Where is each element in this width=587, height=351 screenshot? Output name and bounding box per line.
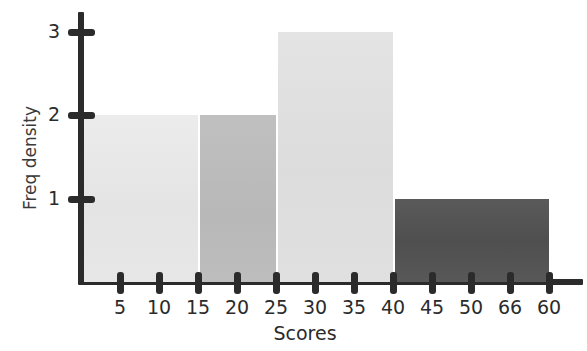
x-axis-tick <box>234 272 241 294</box>
x-axis-tick-label: 45 <box>412 298 452 317</box>
x-axis-tick <box>156 272 163 294</box>
y-axis-tick <box>68 29 95 36</box>
x-axis-tick <box>390 272 397 294</box>
y-axis-tick <box>68 196 95 203</box>
x-axis-tick-label: 35 <box>334 298 374 317</box>
x-axis-tick-label: 30 <box>295 298 335 317</box>
histogram-chart: 123 51015202530354045506660 Freq density… <box>0 0 587 351</box>
x-axis-tick-label: 5 <box>100 298 140 317</box>
x-axis-tick <box>312 272 319 294</box>
x-axis-tick-label: 60 <box>529 298 569 317</box>
y-axis-tick-label: 2 <box>38 105 60 124</box>
x-axis-tick <box>117 272 124 294</box>
histogram-bar <box>200 115 276 282</box>
y-axis-title: Freq density <box>20 88 40 228</box>
x-axis-tick <box>507 272 514 294</box>
y-axis-tick <box>68 112 95 119</box>
x-axis-tick <box>546 272 553 294</box>
x-axis-tick <box>195 272 202 294</box>
histogram-bar <box>84 115 198 282</box>
y-axis-tick-label: 3 <box>38 22 60 41</box>
histogram-bar <box>395 199 549 283</box>
x-axis-tick-label: 66 <box>490 298 530 317</box>
x-axis-tick <box>273 272 280 294</box>
x-axis-tick-label: 20 <box>217 298 257 317</box>
x-axis-tick-label: 10 <box>139 298 179 317</box>
x-axis-tick-label: 50 <box>451 298 491 317</box>
x-axis-tick-label: 25 <box>256 298 296 317</box>
x-axis-title: Scores <box>255 322 355 344</box>
x-axis-tick-label: 15 <box>178 298 218 317</box>
y-axis-tick-label: 1 <box>38 189 60 208</box>
x-axis-tick-label: 40 <box>373 298 413 317</box>
x-axis-tick <box>429 272 436 294</box>
x-axis-tick <box>351 272 358 294</box>
x-axis-tick <box>468 272 475 294</box>
histogram-bar <box>278 32 393 283</box>
